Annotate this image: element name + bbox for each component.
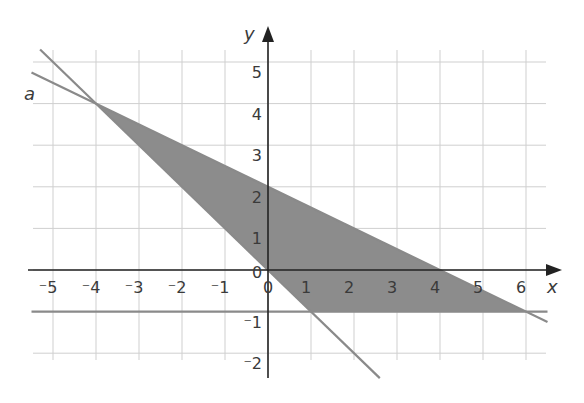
y-tick-label: 1: [252, 229, 262, 248]
y-axis-label: y: [243, 23, 255, 44]
y-tick-label: 3: [252, 146, 262, 165]
y-tick-label: 5: [252, 63, 262, 82]
y-axis-arrow-icon: [262, 26, 274, 42]
x-axis-arrow-icon: [546, 264, 562, 276]
x-tick-label: 3: [387, 278, 397, 297]
x-tick-label: ⁻3: [125, 278, 144, 297]
x-tick-label: ⁻2: [168, 278, 187, 297]
y-tick-label: ⁻1: [243, 313, 262, 332]
y-tick-label: 2: [252, 188, 262, 207]
x-tick-label: 1: [301, 278, 311, 297]
graph: ⁻5⁻4⁻3⁻2⁻112345612345⁻1⁻20 x y a 0: [0, 0, 584, 403]
x-tick-label-zero: 0: [263, 278, 273, 297]
y-tick-label: ⁻2: [243, 354, 262, 373]
x-tick-label: 6: [516, 278, 526, 297]
x-tick-label: ⁻4: [82, 278, 101, 297]
x-tick-label: 2: [344, 278, 354, 297]
x-tick-label: 4: [430, 278, 440, 297]
line-a-label: a: [24, 83, 35, 104]
x-tick-label: ⁻5: [39, 278, 58, 297]
x-axis-label: x: [546, 276, 558, 297]
origin-label: 0: [252, 263, 262, 282]
series-line: [40, 50, 380, 379]
x-tick-label: 5: [473, 278, 483, 297]
x-tick-label: ⁻1: [211, 278, 230, 297]
y-tick-label: 4: [252, 105, 262, 124]
